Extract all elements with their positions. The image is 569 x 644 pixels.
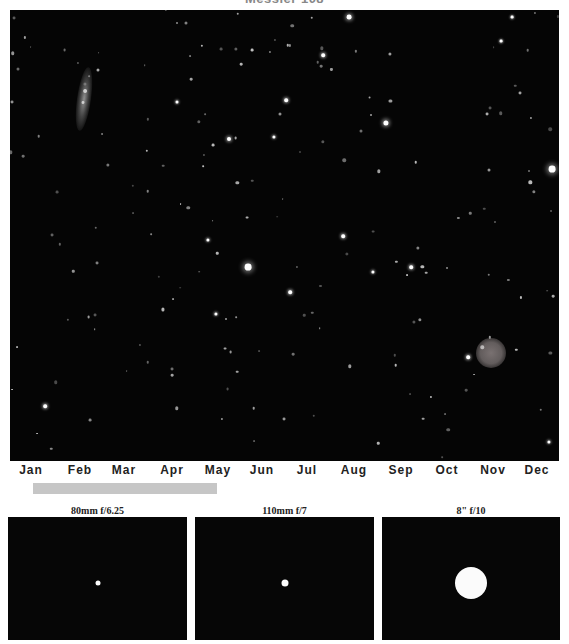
faint-star (94, 328, 96, 330)
faint-star (235, 316, 237, 318)
faint-star (487, 168, 490, 171)
faint-star (299, 151, 301, 153)
faint-star (24, 36, 26, 38)
faint-star (320, 65, 323, 68)
faint-star (441, 456, 443, 458)
telescope-view-panel: 110mm f/7 (195, 505, 374, 640)
faint-star (253, 440, 255, 442)
faint-star (95, 261, 98, 264)
month-label-jan: Jan (19, 463, 43, 477)
faint-star (425, 272, 428, 275)
bright-star (466, 355, 470, 359)
faint-star (557, 15, 559, 17)
faint-star (176, 22, 178, 24)
faint-star (203, 154, 205, 156)
faint-star (295, 266, 297, 268)
bright-star (347, 15, 352, 20)
bright-star (409, 265, 413, 269)
faint-star (355, 50, 357, 52)
faint-star (96, 69, 99, 72)
faint-star (465, 389, 468, 392)
faint-star (10, 100, 13, 103)
faint-star (197, 120, 200, 123)
faint-star (131, 185, 133, 187)
faint-star (72, 270, 74, 272)
faint-star (552, 295, 555, 298)
faint-star (146, 149, 148, 151)
faint-star (493, 47, 495, 49)
faint-star (514, 84, 516, 86)
month-label-jun: Jun (250, 463, 274, 477)
faint-star (87, 316, 90, 319)
bright-star (214, 312, 217, 315)
faint-star (202, 166, 204, 168)
faint-star (101, 133, 103, 135)
faint-star (144, 64, 146, 66)
faint-star (10, 151, 13, 154)
faint-star (550, 210, 552, 212)
faint-star (416, 246, 419, 249)
faint-star (269, 51, 271, 53)
faint-star (51, 233, 54, 236)
bright-star (272, 135, 275, 138)
faint-star (146, 190, 149, 193)
bright-star (383, 120, 388, 125)
faint-star (95, 227, 98, 230)
telescope-label: 80mm f/6.25 (8, 505, 187, 516)
faint-star (165, 10, 167, 11)
faint-star (310, 16, 312, 18)
month-label-aug: Aug (341, 463, 367, 477)
faint-star (526, 49, 529, 52)
faint-star (56, 191, 59, 194)
eyepiece-view (8, 517, 187, 640)
faint-star (419, 318, 422, 321)
faint-star (54, 381, 58, 385)
faint-star (251, 49, 254, 52)
faint-star (534, 12, 536, 14)
faint-star (488, 274, 491, 277)
faint-star (50, 447, 52, 449)
faint-star (11, 389, 13, 391)
faint-star (37, 135, 40, 138)
faint-star (370, 114, 372, 116)
faint-star (546, 290, 548, 292)
month-label-nov: Nov (480, 463, 506, 477)
faint-star (77, 62, 79, 64)
faint-star (201, 45, 203, 47)
faint-star (389, 99, 392, 102)
faint-star (343, 159, 347, 163)
faint-star (236, 13, 239, 16)
chart-title: Messier 108 (0, 0, 569, 6)
faint-star (359, 129, 362, 132)
faint-star (93, 314, 96, 317)
faint-star (407, 274, 409, 276)
bright-star (288, 290, 292, 294)
faint-star (162, 308, 165, 311)
faint-star (147, 361, 150, 364)
faint-star (146, 118, 148, 120)
faint-star (235, 47, 238, 50)
faint-star (198, 271, 200, 273)
owl-nebula-m97 (476, 338, 506, 368)
faint-star (37, 433, 39, 435)
star-field-image (10, 10, 559, 461)
object-disk (95, 580, 100, 585)
month-label-sep: Sep (388, 463, 413, 477)
faint-star (229, 351, 232, 354)
faint-star (220, 48, 223, 51)
bright-star (547, 440, 550, 443)
galaxy-m108 (73, 66, 96, 131)
bright-star (227, 137, 231, 141)
month-axis: JanFebMarAprMayJunJulAugSepOctNovDec (0, 463, 569, 481)
faint-star (190, 78, 193, 81)
faint-star (488, 106, 491, 109)
faint-star (445, 413, 447, 415)
faint-star (30, 46, 32, 48)
telescope-label: 110mm f/7 (195, 505, 374, 516)
faint-star (180, 203, 182, 205)
faint-star (346, 252, 349, 255)
faint-star (274, 39, 276, 41)
faint-star (58, 243, 60, 245)
faint-star (17, 67, 20, 70)
faint-star (289, 44, 291, 46)
